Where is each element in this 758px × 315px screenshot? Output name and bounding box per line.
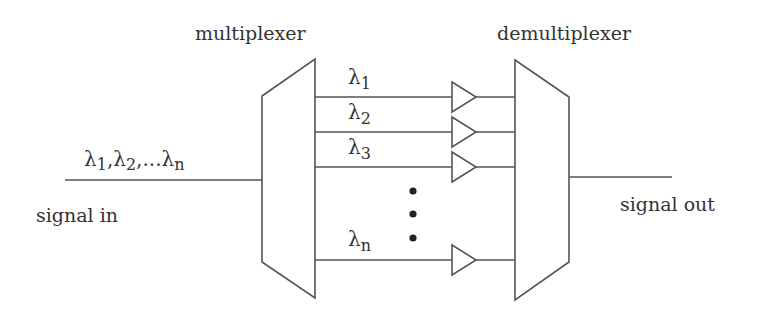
channel-label-n: λn bbox=[348, 227, 371, 255]
channel-label-1: λ1 bbox=[348, 65, 371, 93]
signal-out-label: signal out bbox=[620, 193, 715, 215]
wdm-diagram: multiplexer demultiplexer signal in sign… bbox=[0, 0, 758, 315]
input-wavelengths-label: λ1,λ2,...λn bbox=[84, 147, 185, 174]
channel-label-3: λ3 bbox=[348, 135, 371, 163]
amplifier-icon bbox=[452, 82, 476, 112]
ellipsis-dots bbox=[409, 187, 416, 241]
demultiplexer-block bbox=[515, 60, 569, 300]
amplifier-icon bbox=[452, 245, 476, 275]
multiplexer-block bbox=[262, 59, 315, 298]
signal-in-label: signal in bbox=[36, 204, 118, 226]
multiplexer-label: multiplexer bbox=[195, 22, 306, 44]
channel-label-2: λ2 bbox=[348, 100, 371, 128]
amplifier-icon bbox=[452, 152, 476, 182]
amplifier-icon bbox=[452, 117, 476, 147]
demultiplexer-label: demultiplexer bbox=[497, 22, 632, 44]
